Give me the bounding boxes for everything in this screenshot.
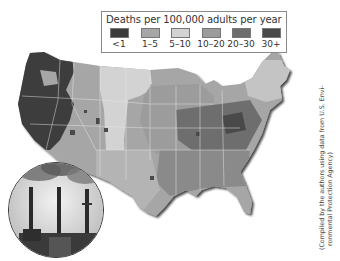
legend-label: 30+	[256, 39, 286, 49]
legend-item-lt1: <1	[104, 28, 134, 49]
map-legend: Deaths per 100,000 adults per year <1 1–…	[101, 11, 287, 53]
caption-line-1: (Compiled by the authors using data from…	[318, 86, 326, 250]
smokestacks-icon	[9, 163, 103, 257]
legend-label: <1	[104, 39, 134, 49]
legend-item-1-5: 1–5	[135, 28, 165, 49]
legend-swatch	[262, 28, 281, 38]
legend-swatch	[202, 28, 221, 38]
source-caption: (Compiled by the authors using data from…	[318, 86, 334, 250]
legend-swatch	[110, 28, 129, 38]
legend-item-10-20: 10–20	[196, 28, 226, 49]
legend-swatch	[141, 28, 160, 38]
legend-item-5-10: 5–10	[165, 28, 195, 49]
legend-item-20-30: 20–30	[226, 28, 256, 49]
legend-label: 20–30	[226, 39, 256, 49]
legend-swatch	[232, 28, 251, 38]
legend-label: 10–20	[196, 39, 226, 49]
smokestack-photo	[8, 162, 104, 258]
legend-item-30plus: 30+	[256, 28, 286, 49]
caption-line-2: ronmental Protection Agency)	[326, 86, 334, 250]
legend-label: 5–10	[165, 39, 195, 49]
legend-title: Deaths per 100,000 adults per year	[106, 14, 282, 25]
legend-swatch	[171, 28, 190, 38]
legend-label: 1–5	[135, 39, 165, 49]
